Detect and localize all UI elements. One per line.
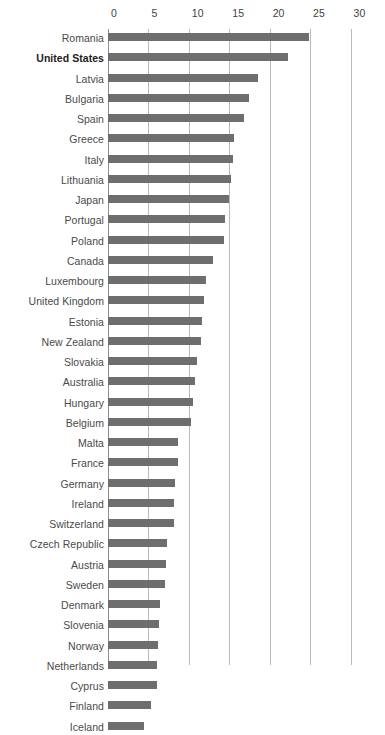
- bar-row: Estonia: [0, 313, 385, 333]
- x-tick-label-20: 20: [273, 8, 285, 19]
- bar-row: Greece: [0, 130, 385, 150]
- bar-ireland: [108, 499, 174, 507]
- bar-united-states: [108, 53, 288, 61]
- bar-row: Cyprus: [0, 677, 385, 697]
- bar-row: Italy: [0, 151, 385, 171]
- category-label-france: France: [0, 457, 104, 470]
- x-tick-label-0: 0: [111, 8, 117, 19]
- category-label-finland: Finland: [0, 700, 104, 713]
- bar-row: Germany: [0, 475, 385, 495]
- bar-row: Romania: [0, 29, 385, 49]
- bar-row: United States: [0, 49, 385, 69]
- bar-row: Norway: [0, 637, 385, 657]
- category-label-norway: Norway: [0, 640, 104, 653]
- x-axis-tick-labels: 051015202530: [0, 0, 385, 29]
- bar-germany: [108, 479, 175, 487]
- category-label-sweden: Sweden: [0, 579, 104, 592]
- category-label-estonia: Estonia: [0, 316, 104, 329]
- category-label-spain: Spain: [0, 113, 104, 126]
- category-label-romania: Romania: [0, 32, 104, 45]
- category-label-united-kingdom: United Kingdom: [0, 295, 104, 308]
- x-tick-label-10: 10: [192, 8, 204, 19]
- bar-row: Japan: [0, 191, 385, 211]
- category-label-lithuania: Lithuania: [0, 174, 104, 187]
- bar-row: Spain: [0, 110, 385, 130]
- bar-greece: [108, 134, 234, 142]
- bar-spain: [108, 114, 244, 122]
- bar-poland: [108, 236, 224, 244]
- bar-row: Switzerland: [0, 515, 385, 535]
- bar-romania: [108, 33, 309, 41]
- category-label-australia: Australia: [0, 376, 104, 389]
- bar-row: Denmark: [0, 596, 385, 616]
- bar-row: Austria: [0, 556, 385, 576]
- bar-row: Malta: [0, 434, 385, 454]
- bar-czech-republic: [108, 539, 167, 547]
- x-tick-label-15: 15: [232, 8, 244, 19]
- bar-row: Lithuania: [0, 171, 385, 191]
- bar-row: Sweden: [0, 576, 385, 596]
- bar-row: Hungary: [0, 394, 385, 414]
- bar-row: Australia: [0, 373, 385, 393]
- category-label-united-states: United States: [0, 52, 104, 65]
- category-label-greece: Greece: [0, 133, 104, 146]
- bar-malta: [108, 438, 178, 446]
- bar-portugal: [108, 215, 225, 223]
- bar-row: Finland: [0, 697, 385, 717]
- bar-france: [108, 458, 178, 466]
- bar-sweden: [108, 580, 165, 588]
- bar-row: New Zealand: [0, 333, 385, 353]
- bar-row: Iceland: [0, 718, 385, 735]
- category-label-austria: Austria: [0, 559, 104, 572]
- bar-row: Canada: [0, 252, 385, 272]
- bar-united-kingdom: [108, 296, 204, 304]
- x-tick-label-5: 5: [151, 8, 157, 19]
- bar-row: United Kingdom: [0, 292, 385, 312]
- category-label-bulgaria: Bulgaria: [0, 93, 104, 106]
- bar-row: France: [0, 454, 385, 474]
- bar-norway: [108, 641, 158, 649]
- category-label-belgium: Belgium: [0, 417, 104, 430]
- bar-row: Luxembourg: [0, 272, 385, 292]
- category-label-luxembourg: Luxembourg: [0, 275, 104, 288]
- category-label-netherlands: Netherlands: [0, 660, 104, 673]
- bar-new-zealand: [108, 337, 201, 345]
- bar-bulgaria: [108, 94, 249, 102]
- bar-belgium: [108, 418, 191, 426]
- bar-switzerland: [108, 519, 174, 527]
- bar-lithuania: [108, 175, 231, 183]
- category-label-italy: Italy: [0, 154, 104, 167]
- category-label-cyprus: Cyprus: [0, 680, 104, 693]
- category-label-portugal: Portugal: [0, 214, 104, 227]
- bar-row: Slovakia: [0, 353, 385, 373]
- x-tick-label-25: 25: [313, 8, 325, 19]
- bar-cyprus: [108, 681, 157, 689]
- bar-australia: [108, 377, 195, 385]
- bar-japan: [108, 195, 229, 203]
- bar-row: Latvia: [0, 70, 385, 90]
- bar-austria: [108, 560, 166, 568]
- bar-row: Poland: [0, 232, 385, 252]
- bar-row: Belgium: [0, 414, 385, 434]
- bar-row: Slovenia: [0, 616, 385, 636]
- category-label-ireland: Ireland: [0, 498, 104, 511]
- category-label-poland: Poland: [0, 235, 104, 248]
- category-label-germany: Germany: [0, 478, 104, 491]
- bar-row: Netherlands: [0, 657, 385, 677]
- category-label-iceland: Iceland: [0, 721, 104, 734]
- bar-slovenia: [108, 620, 159, 628]
- category-label-japan: Japan: [0, 194, 104, 207]
- category-label-switzerland: Switzerland: [0, 518, 104, 531]
- category-label-slovakia: Slovakia: [0, 356, 104, 369]
- category-label-hungary: Hungary: [0, 397, 104, 410]
- bar-finland: [108, 701, 151, 709]
- category-label-latvia: Latvia: [0, 73, 104, 86]
- bar-row: Ireland: [0, 495, 385, 515]
- bar-latvia: [108, 74, 258, 82]
- bar-row: Portugal: [0, 211, 385, 231]
- bar-hungary: [108, 398, 193, 406]
- bar-row: Czech Republic: [0, 535, 385, 555]
- category-label-czech-republic: Czech Republic: [0, 538, 104, 551]
- bar-canada: [108, 256, 213, 264]
- category-label-canada: Canada: [0, 255, 104, 268]
